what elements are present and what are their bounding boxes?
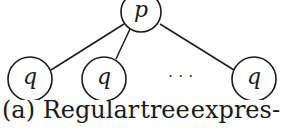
figure-caption: (a) Regular tree expres- (2, 96, 282, 124)
tree-diagram: pqqq · · · (0, 0, 282, 100)
tree-edge (160, 24, 234, 70)
tree-nodes: pqqq (8, 0, 276, 100)
node-label: p (134, 0, 148, 22)
node-label: q (23, 64, 37, 89)
caption-part-1: (a) Regular (2, 96, 139, 124)
ellipsis: · · · (168, 67, 193, 86)
child-node: q (232, 57, 276, 100)
root-node: p (121, 0, 161, 32)
child-node: q (8, 57, 52, 100)
caption-part-3: expres- (191, 96, 280, 124)
node-label: q (97, 64, 111, 89)
caption-part-2: tree (140, 96, 190, 124)
child-node: q (82, 57, 126, 100)
node-label: q (247, 64, 261, 89)
tree-edge (116, 29, 130, 59)
